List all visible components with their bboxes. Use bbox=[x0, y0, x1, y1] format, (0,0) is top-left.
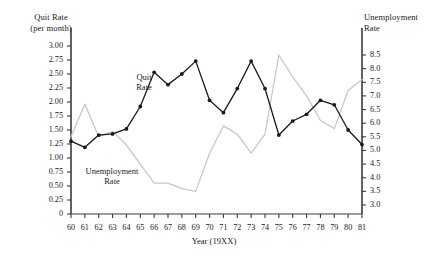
x-axis-title: Year (19XX) bbox=[0, 236, 428, 246]
quit-rate-annotation: Quit Rate bbox=[122, 72, 166, 92]
right-tick-label: 4.0 bbox=[370, 174, 404, 182]
axes-lines bbox=[71, 28, 362, 214]
right-tick-label: 8.5 bbox=[370, 51, 404, 59]
x-tick-label: 81 bbox=[352, 224, 372, 232]
left-tick-label: 2.00 bbox=[29, 98, 63, 106]
x-axis-ticks bbox=[71, 214, 362, 218]
left-tick-label: 0.25 bbox=[29, 196, 63, 204]
right-tick-label: 7.0 bbox=[370, 92, 404, 100]
right-tick-label: 3.0 bbox=[370, 201, 404, 209]
right-tick-label: 7.5 bbox=[370, 78, 404, 86]
left-tick-label: 3.00 bbox=[29, 42, 63, 50]
right-tick-label: 4.5 bbox=[370, 160, 404, 168]
left-tick-label: 2.25 bbox=[29, 84, 63, 92]
right-tick-label: 6.5 bbox=[370, 106, 404, 114]
right-tick-label: 5.0 bbox=[370, 146, 404, 154]
left-tick-label: 2.75 bbox=[29, 56, 63, 64]
left-tick-label: 1.75 bbox=[29, 112, 63, 120]
left-tick-label: 0 bbox=[29, 210, 63, 218]
right-tick-label: 3.5 bbox=[370, 187, 404, 195]
series-quit-rate bbox=[69, 59, 364, 149]
unemployment-rate-annotation: Unemployment Rate bbox=[60, 166, 164, 186]
right-tick-label: 8.0 bbox=[370, 65, 404, 73]
left-tick-label: 0.50 bbox=[29, 182, 63, 190]
left-tick-label: 1.50 bbox=[29, 126, 63, 134]
left-tick-label: 2.50 bbox=[29, 70, 63, 78]
left-tick-label: 0.75 bbox=[29, 168, 63, 176]
right-tick-label: 5.5 bbox=[370, 133, 404, 141]
plot-area bbox=[0, 0, 428, 257]
left-tick-label: 1.25 bbox=[29, 140, 63, 148]
left-tick-label: 1.00 bbox=[29, 154, 63, 162]
chart-figure: Quit Rate (per month) Unemployment Rate … bbox=[0, 0, 428, 257]
right-tick-label: 6.0 bbox=[370, 119, 404, 127]
